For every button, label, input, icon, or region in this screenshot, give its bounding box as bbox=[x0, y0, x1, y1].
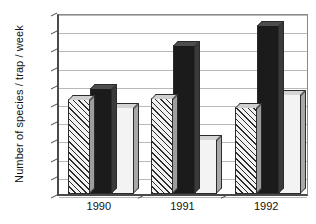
bar-side-face bbox=[257, 103, 262, 193]
bar-1990-series-1-hatched bbox=[68, 99, 90, 194]
bar-side-face bbox=[173, 94, 178, 193]
gridline bbox=[59, 197, 307, 198]
x-axis-tick-label: 1991 bbox=[143, 200, 223, 212]
bar-side-face bbox=[279, 21, 284, 193]
y-axis-title: Number of species / trap / week bbox=[13, 9, 25, 199]
bar-chart: Number of species / trap / week 00.511.5… bbox=[0, 0, 316, 224]
bar-group bbox=[226, 15, 310, 194]
bar-side-face bbox=[90, 95, 95, 193]
x-axis-tick-label: 1990 bbox=[59, 200, 139, 212]
x-axis-tick-label: 1992 bbox=[226, 200, 306, 212]
bar-1992-series-1-hatched bbox=[235, 107, 257, 194]
bar-side-face bbox=[301, 90, 306, 193]
bar-group bbox=[143, 15, 227, 194]
bar-side-face bbox=[195, 41, 200, 193]
bar-1991-series-1-hatched bbox=[151, 98, 173, 194]
bar-side-face bbox=[217, 135, 222, 193]
plot-area bbox=[57, 14, 308, 196]
bar-side-face bbox=[134, 103, 139, 193]
bar-side-face bbox=[112, 84, 117, 193]
bar-group bbox=[59, 15, 143, 194]
